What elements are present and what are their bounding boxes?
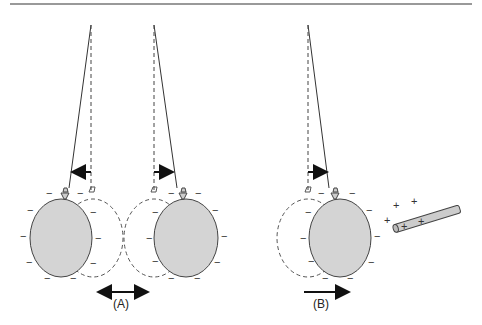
svg-text:−: − [20,230,26,242]
svg-text:−: − [152,255,158,267]
electrostatics-figure: − − − − − − − − − − − − − − − − − − − − … [0,0,482,325]
svg-text:+: + [418,215,424,227]
svg-text:+: + [401,220,407,232]
svg-text:−: − [77,187,83,199]
svg-text:−: − [46,187,52,199]
svg-text:−: − [90,206,96,218]
svg-text:−: − [368,256,374,268]
panel-a-label: (A) [113,297,129,311]
svg-text:−: − [95,232,101,244]
svg-text:−: − [349,187,355,199]
panel-a: − − − − − − − − − − − − − − − − − − − − … [20,25,227,311]
svg-text:−: − [195,187,201,199]
svg-text:−: − [90,257,96,269]
svg-text:−: − [308,255,314,267]
balloon-right [154,199,218,277]
svg-text:−: − [152,206,158,218]
balloon-left [30,199,92,277]
svg-text:−: − [300,232,306,244]
svg-text:+: + [384,214,390,226]
svg-text:−: − [305,206,311,218]
svg-text:−: − [168,187,174,199]
svg-text:−: − [70,272,76,284]
svg-text:−: − [214,256,220,268]
panel-b-label: (B) [313,297,329,311]
svg-text:−: − [374,230,380,242]
svg-text:−: − [168,272,174,284]
panel-b: − − − − − − − − − − + + + + + (B) [277,25,461,311]
svg-text:−: − [347,272,353,284]
svg-text:−: − [194,272,200,284]
svg-text:−: − [366,204,372,216]
svg-text:−: − [212,204,218,216]
svg-text:−: − [221,230,227,242]
svg-text:+: + [411,195,417,207]
balloon-b [309,199,371,277]
svg-text:+: + [393,199,399,211]
svg-text:−: − [27,204,33,216]
svg-text:−: − [146,232,152,244]
svg-text:−: − [322,272,328,284]
svg-text:−: − [44,272,50,284]
svg-text:−: − [318,187,324,199]
svg-text:−: − [26,256,32,268]
